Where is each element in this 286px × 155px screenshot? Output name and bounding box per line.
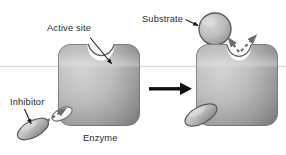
label-enzyme: Enzyme: [83, 133, 117, 143]
label-substrate: Substrate: [142, 14, 183, 24]
enzyme-inhibition-figure: Active site Inhibitor Enzyme Substrate: [0, 0, 286, 155]
substrate-molecule: [199, 13, 231, 45]
left-panel: Active site Inhibitor Enzyme: [10, 23, 140, 144]
label-active-site: Active site: [47, 23, 91, 33]
right-panel: Substrate: [142, 13, 278, 131]
label-inhibitor: Inhibitor: [10, 97, 44, 107]
diagram-canvas: Active site Inhibitor Enzyme Substrate: [0, 0, 286, 155]
process-arrow: [149, 83, 192, 95]
inhibitor-free: [14, 114, 52, 144]
substrate-leader-line: [186, 20, 199, 26]
inhibitor-leader-line: [25, 109, 32, 124]
